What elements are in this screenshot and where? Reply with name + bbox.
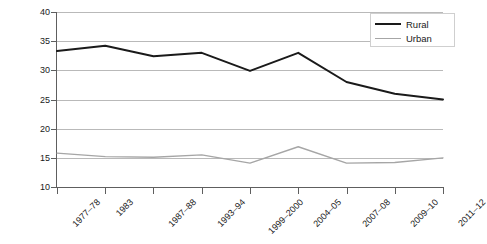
legend-label-urban: Urban — [406, 33, 432, 44]
legend: Rural Urban — [370, 13, 455, 47]
legend-item-urban: Urban — [375, 31, 450, 45]
series-line-urban — [57, 147, 443, 163]
legend-item-rural: Rural — [375, 17, 450, 31]
legend-label-rural: Rural — [406, 19, 429, 30]
x-tick-label: 2011–12 — [456, 197, 487, 228]
legend-swatch-rural-icon — [375, 23, 401, 25]
series-line-rural — [57, 46, 443, 100]
legend-swatch-urban-icon — [375, 38, 401, 39]
